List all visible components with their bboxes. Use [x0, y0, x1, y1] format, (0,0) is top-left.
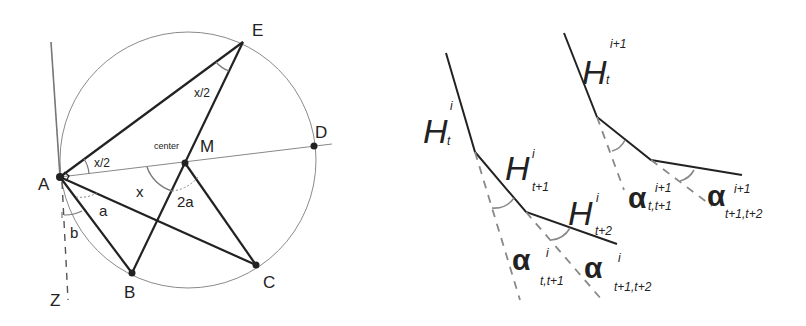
point-B — [129, 270, 136, 277]
label-Z: Z — [50, 291, 60, 310]
chain-i1-angle-arc-1 — [612, 140, 625, 151]
label-angle-2a: 2a — [177, 193, 194, 210]
label-center: center — [154, 141, 179, 151]
svg-text:i: i — [596, 191, 599, 205]
svg-text:t,t+1: t,t+1 — [648, 199, 672, 213]
segment-EB — [132, 42, 243, 273]
svg-text:H: H — [505, 149, 530, 187]
svg-text:i+1: i+1 — [734, 182, 750, 196]
label-alpha-t-t1-i: α t,t+1 i — [512, 243, 564, 288]
svg-text:i+1: i+1 — [610, 37, 626, 51]
point-A — [56, 173, 64, 181]
label-angle-a: a — [99, 202, 108, 219]
label-alpha-t1-t2-i1: α t+1,t+2 i+1 — [707, 179, 763, 221]
label-B: B — [124, 283, 135, 302]
svg-text:i: i — [546, 246, 549, 260]
label-M: M — [200, 137, 214, 156]
point-C — [253, 262, 260, 269]
label-alpha-t-t1-i1: α t,t+1 i+1 — [628, 181, 672, 214]
label-A: A — [38, 175, 50, 194]
label-alpha-t1-t2-i: α t+1,t+2 i — [584, 251, 652, 294]
svg-text:t: t — [447, 134, 451, 148]
angle-arc-E-x-half — [216, 62, 229, 71]
chain-i1-angle-arc-2 — [680, 170, 694, 181]
chain-i-angle-arc-1 — [492, 198, 514, 208]
dashed-line-AZ — [62, 182, 68, 300]
svg-text:i+1: i+1 — [655, 181, 671, 195]
angle-arc-M-x — [147, 167, 172, 191]
svg-text:α: α — [584, 251, 603, 284]
point-D — [311, 143, 318, 150]
label-H-t1-i: H t+1 i — [505, 147, 549, 194]
svg-text:t: t — [606, 73, 610, 87]
point-M — [182, 160, 189, 167]
svg-text:α: α — [628, 181, 647, 214]
segment-AE — [60, 42, 243, 177]
label-H-t-i1: H t i+1 — [582, 37, 626, 91]
svg-text:α: α — [512, 243, 531, 276]
label-angle-x: x — [136, 183, 144, 200]
label-C: C — [263, 273, 275, 292]
label-angle-x-half-A: x/2 — [94, 156, 110, 170]
label-E: E — [252, 21, 263, 40]
svg-text:α: α — [707, 179, 726, 212]
label-H-t-i: H t i — [423, 99, 453, 150]
angle-arc-A-x-half — [84, 159, 89, 174]
polyline-angle-figure: H t i H t+1 i H t+2 i α t,t+1 i α t+1,t+… — [423, 33, 763, 300]
svg-text:H: H — [423, 112, 448, 150]
angle-arc-A-b — [64, 211, 82, 215]
svg-text:t+1,t+2: t+1,t+2 — [725, 207, 763, 221]
svg-text:i: i — [532, 147, 535, 161]
svg-text:t+1: t+1 — [532, 180, 549, 194]
label-D: D — [315, 123, 327, 142]
circle-geometry-figure: E D M center A B C Z x/2 x/2 x 2a a b — [38, 21, 332, 310]
svg-text:i: i — [450, 99, 453, 113]
svg-text:H: H — [582, 53, 607, 91]
angle-arc-A-a-dotted — [76, 193, 97, 197]
diagram-canvas: E D M center A B C Z x/2 x/2 x 2a a b H … — [0, 0, 806, 326]
label-angle-b: b — [70, 224, 78, 241]
tangent-line — [51, 42, 60, 177]
label-H-t2-i: H t+2 i — [568, 191, 612, 238]
svg-text:i: i — [618, 251, 621, 265]
svg-text:t+1,t+2: t+1,t+2 — [614, 280, 652, 294]
label-angle-x-half-E: x/2 — [194, 86, 210, 100]
svg-text:t+2: t+2 — [595, 224, 612, 238]
svg-text:H: H — [568, 194, 593, 232]
svg-text:t,t+1: t,t+1 — [540, 274, 564, 288]
